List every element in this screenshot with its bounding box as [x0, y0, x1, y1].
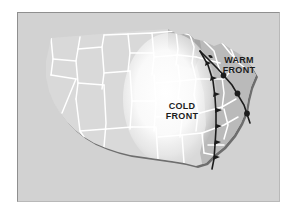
- map-panel: COLD FRONT WARM FRONT: [17, 12, 280, 202]
- us-weather-map: [18, 13, 279, 201]
- weather-map-figure: COLD FRONT WARM FRONT: [0, 0, 297, 214]
